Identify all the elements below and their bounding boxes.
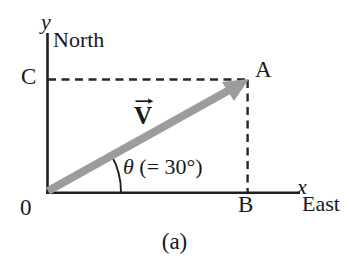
north-direction-label: North: [53, 29, 104, 51]
east-direction-label: East: [302, 193, 340, 215]
angle-arc: [112, 156, 122, 193]
figure-caption: (a): [0, 230, 349, 253]
angle-annotation: θ (= 30°): [123, 156, 203, 178]
theta-symbol: θ: [123, 154, 134, 179]
point-c-label: C: [21, 65, 36, 88]
angle-value-text: (= 30°): [134, 154, 203, 179]
point-a-label: A: [255, 58, 272, 81]
y-axis-label: y: [41, 11, 51, 33]
point-b-label: B: [238, 193, 253, 216]
vector-symbol-label: V: [134, 103, 152, 128]
vector-diagram-figure: y North C A V θ (= 30°) 0 B x East (a): [0, 0, 349, 269]
vector-symbol-text: V: [134, 102, 152, 129]
origin-label: 0: [20, 196, 32, 219]
